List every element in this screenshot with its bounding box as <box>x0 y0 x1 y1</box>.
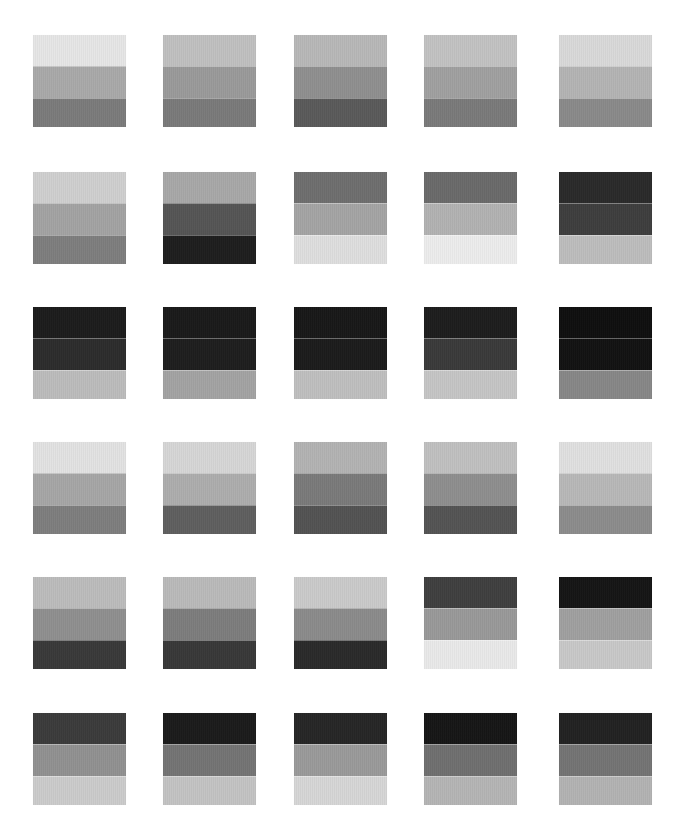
gray-swatch-r2-c3 <box>294 172 387 264</box>
gray-swatch-r6-c4 <box>424 713 517 805</box>
gray-swatch-r3-c3 <box>294 307 387 399</box>
gray-swatch-r4-c2 <box>163 442 256 534</box>
gray-swatch-r6-c2 <box>163 713 256 805</box>
swatch-band-top <box>163 35 256 66</box>
swatch-band-mid <box>33 744 126 776</box>
swatch-band-mid <box>33 338 126 370</box>
swatch-band-mid <box>163 203 256 235</box>
swatch-band-bot <box>559 370 652 399</box>
swatch-band-bot <box>33 776 126 805</box>
swatch-band-top <box>294 172 387 203</box>
swatch-band-mid <box>424 66 517 98</box>
swatch-band-bot <box>294 235 387 264</box>
gray-swatch-r5-c1 <box>33 577 126 669</box>
swatch-band-bot <box>424 505 517 534</box>
swatch-band-top <box>424 713 517 744</box>
swatch-band-mid <box>559 608 652 640</box>
swatch-band-bot <box>163 370 256 399</box>
gray-swatch-r3-c4 <box>424 307 517 399</box>
swatch-band-top <box>559 442 652 473</box>
gray-swatch-r5-c2 <box>163 577 256 669</box>
swatch-band-mid <box>33 473 126 505</box>
swatch-band-mid <box>294 338 387 370</box>
swatch-band-bot <box>559 640 652 669</box>
swatch-band-top <box>163 442 256 473</box>
swatch-band-top <box>559 172 652 203</box>
swatch-band-mid <box>559 203 652 235</box>
gray-swatch-r4-c5 <box>559 442 652 534</box>
swatch-band-top <box>33 35 126 66</box>
swatch-band-mid <box>33 203 126 235</box>
swatch-band-bot <box>424 640 517 669</box>
swatch-band-bot <box>559 98 652 127</box>
swatch-band-mid <box>559 473 652 505</box>
gray-swatch-r2-c1 <box>33 172 126 264</box>
swatch-band-top <box>294 307 387 338</box>
swatch-band-bot <box>294 505 387 534</box>
swatch-band-mid <box>559 66 652 98</box>
swatch-band-mid <box>559 338 652 370</box>
swatch-band-bot <box>33 640 126 669</box>
swatch-band-top <box>163 713 256 744</box>
swatch-band-top <box>559 307 652 338</box>
swatch-band-top <box>424 172 517 203</box>
swatch-band-mid <box>294 203 387 235</box>
swatch-band-bot <box>163 235 256 264</box>
swatch-band-top <box>33 577 126 608</box>
gray-swatch-r2-c5 <box>559 172 652 264</box>
swatch-band-mid <box>294 473 387 505</box>
swatch-band-top <box>294 442 387 473</box>
swatch-band-top <box>424 307 517 338</box>
gray-swatch-r3-c5 <box>559 307 652 399</box>
swatch-band-top <box>163 307 256 338</box>
gray-swatch-r6-c3 <box>294 713 387 805</box>
gray-swatch-r2-c2 <box>163 172 256 264</box>
swatch-band-top <box>424 577 517 608</box>
swatch-band-mid <box>294 66 387 98</box>
swatch-band-mid <box>424 473 517 505</box>
swatch-band-bot <box>559 505 652 534</box>
swatch-band-top <box>33 172 126 203</box>
swatch-band-bot <box>33 98 126 127</box>
gray-swatch-r3-c2 <box>163 307 256 399</box>
swatch-band-mid <box>33 608 126 640</box>
gray-swatch-r1-c2 <box>163 35 256 127</box>
gray-swatch-r5-c3 <box>294 577 387 669</box>
swatch-band-top <box>294 35 387 66</box>
swatch-band-top <box>559 35 652 66</box>
gray-swatch-grid <box>0 0 684 839</box>
swatch-band-top <box>424 442 517 473</box>
swatch-band-mid <box>424 608 517 640</box>
swatch-band-top <box>559 577 652 608</box>
gray-swatch-r5-c5 <box>559 577 652 669</box>
gray-swatch-r3-c1 <box>33 307 126 399</box>
swatch-band-mid <box>559 744 652 776</box>
swatch-band-mid <box>294 744 387 776</box>
gray-swatch-r4-c1 <box>33 442 126 534</box>
swatch-band-bot <box>294 776 387 805</box>
swatch-band-mid <box>33 66 126 98</box>
gray-swatch-r1-c4 <box>424 35 517 127</box>
gray-swatch-r1-c3 <box>294 35 387 127</box>
swatch-band-top <box>163 172 256 203</box>
gray-swatch-r1-c1 <box>33 35 126 127</box>
swatch-band-top <box>33 713 126 744</box>
swatch-band-bot <box>559 235 652 264</box>
gray-swatch-r1-c5 <box>559 35 652 127</box>
swatch-band-top <box>33 442 126 473</box>
gray-swatch-r4-c4 <box>424 442 517 534</box>
gray-swatch-r4-c3 <box>294 442 387 534</box>
swatch-band-mid <box>163 473 256 505</box>
swatch-band-bot <box>424 98 517 127</box>
swatch-band-bot <box>294 640 387 669</box>
swatch-band-top <box>294 713 387 744</box>
swatch-band-bot <box>33 235 126 264</box>
swatch-band-mid <box>163 338 256 370</box>
swatch-band-bot <box>424 776 517 805</box>
swatch-band-bot <box>294 370 387 399</box>
swatch-band-bot <box>424 370 517 399</box>
swatch-band-mid <box>163 66 256 98</box>
swatch-band-bot <box>559 776 652 805</box>
swatch-band-mid <box>424 203 517 235</box>
gray-swatch-r5-c4 <box>424 577 517 669</box>
